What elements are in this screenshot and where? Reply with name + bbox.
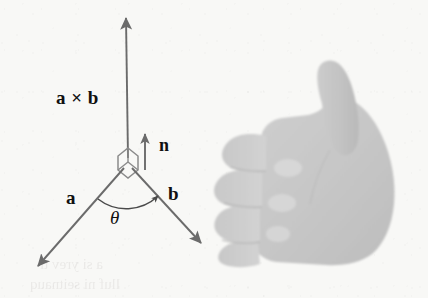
label-cross-product: a × b [56,88,99,107]
bleed-through-text-line-2: lluf ni seitnauq [30,276,120,293]
label-vector-a: a [66,188,76,207]
angle-arc-icon [98,196,158,209]
label-vector-b: b [168,184,179,203]
vector-diagram [0,0,428,298]
figure-container: a × b n a b θ a si yrev ti lluf ni seitn… [0,0,428,298]
bleed-through-text-line-1: a si yrev ti [40,256,103,273]
up-arrow-icon [126,18,128,158]
label-normal-vector: n [159,136,169,154]
label-angle-theta: θ [110,208,119,227]
